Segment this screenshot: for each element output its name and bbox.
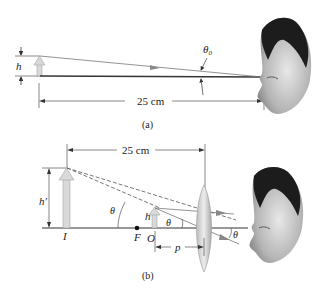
focal-point-icon (135, 226, 140, 231)
figure-b: 25 cm h′ I θ F h O (39, 144, 303, 282)
image-height-label: h′ (39, 195, 48, 207)
object-height-label: h (145, 210, 151, 222)
image-arrow-icon (59, 168, 74, 228)
caption-a: (a) (142, 119, 153, 131)
height-label-h: h (16, 60, 22, 72)
caption-b: (b) (142, 270, 154, 282)
object-distance-label-p: p (174, 241, 181, 253)
object-label-O: O (147, 232, 155, 244)
angle-label-theta-left: θ (110, 205, 115, 216)
angle-label-theta-mid: θ (166, 217, 171, 228)
face-image-a (257, 18, 311, 114)
angle-label-theta-right: θ (233, 229, 238, 240)
figure-a: h θ0 25 cm (a) (15, 18, 311, 131)
distance-label-a: 25 cm (137, 95, 165, 107)
distance-label-b: 25 cm (122, 144, 150, 156)
focal-label-F: F (133, 231, 141, 243)
angle-label-theta0: θ0 (203, 43, 212, 57)
lens-icon (197, 185, 212, 272)
object-arrow-b-icon (149, 207, 160, 228)
face-image-b (249, 167, 303, 263)
object-arrow-icon (34, 56, 45, 76)
magnifier-diagram: h θ0 25 cm (a) (0, 0, 322, 297)
image-label-I: I (62, 230, 68, 242)
